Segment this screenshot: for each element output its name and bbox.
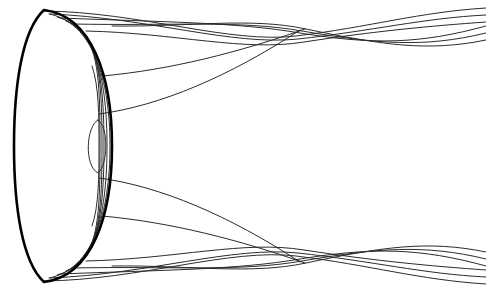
figure-canvas: [0, 0, 486, 292]
line-diagram-svg: [0, 0, 486, 292]
